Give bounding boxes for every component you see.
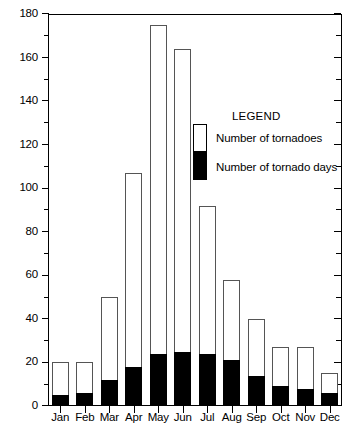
legend-swatch-stack bbox=[193, 124, 207, 180]
bar-tornado-days bbox=[199, 354, 216, 406]
x-axis-label-oct: Oct bbox=[269, 411, 294, 424]
bar-group bbox=[52, 362, 69, 406]
bar-tornadoes bbox=[150, 25, 167, 406]
bar-tornado-days bbox=[52, 395, 69, 406]
x-axis-label-aug: Aug bbox=[220, 411, 245, 424]
x-axis-label-mar: Mar bbox=[97, 411, 122, 424]
x-axis-label-apr: Apr bbox=[122, 411, 147, 424]
bar-tornado-days bbox=[101, 380, 118, 406]
bar-tornado-days bbox=[125, 367, 142, 406]
bar-tornado-days bbox=[297, 389, 314, 406]
x-axis-label-jun: Jun bbox=[171, 411, 196, 424]
x-axis-label-nov: Nov bbox=[293, 411, 318, 424]
tornado-bar-chart: 020406080100120140160180 JanFebMarAprMay… bbox=[0, 0, 352, 432]
bar-tornado-days bbox=[174, 352, 191, 406]
bar-group bbox=[199, 206, 216, 406]
legend-entry-tornado-days: Number of tornado days bbox=[216, 161, 337, 174]
bar-group bbox=[321, 373, 338, 406]
y-axis-label: 60 bbox=[26, 269, 38, 281]
x-axis-label-dec: Dec bbox=[318, 411, 343, 424]
bar-group bbox=[125, 173, 142, 406]
bar-group bbox=[223, 280, 240, 406]
bar-group bbox=[297, 347, 314, 406]
y-axis-label: 40 bbox=[26, 313, 38, 325]
bar-tornado-days bbox=[321, 393, 338, 406]
bar-tornado-days bbox=[76, 393, 93, 406]
x-axis-label-jan: Jan bbox=[48, 411, 73, 424]
legend-title: LEGEND bbox=[232, 110, 281, 123]
bar-group bbox=[174, 49, 191, 406]
x-axis-label-jul: Jul bbox=[195, 411, 220, 424]
y-axis-label: 140 bbox=[19, 95, 38, 107]
bar-tornado-days bbox=[248, 376, 265, 406]
y-axis-label: 0 bbox=[32, 400, 38, 412]
y-axis-label: 160 bbox=[19, 52, 38, 64]
bar-tornado-days bbox=[223, 360, 240, 406]
y-axis-label: 100 bbox=[19, 182, 38, 194]
bar-group bbox=[101, 297, 118, 406]
y-axis-label: 120 bbox=[19, 139, 38, 151]
bar-group bbox=[150, 25, 167, 406]
x-axis-label-feb: Feb bbox=[73, 411, 98, 424]
legend-swatch-black bbox=[194, 151, 206, 179]
bars-layer bbox=[48, 14, 342, 406]
y-axis-label: 180 bbox=[19, 8, 38, 20]
legend-entry-tornadoes: Number of tornadoes bbox=[216, 132, 322, 145]
bar-group bbox=[248, 319, 265, 406]
bar-group bbox=[272, 347, 289, 406]
x-axis-label-may: May bbox=[146, 411, 171, 424]
bar-tornado-days bbox=[272, 386, 289, 406]
bar-tornado-days bbox=[150, 354, 167, 406]
y-axis-label: 80 bbox=[26, 226, 38, 238]
bar-group bbox=[76, 362, 93, 406]
x-axis-label-sep: Sep bbox=[244, 411, 269, 424]
y-axis-label: 20 bbox=[26, 356, 38, 368]
